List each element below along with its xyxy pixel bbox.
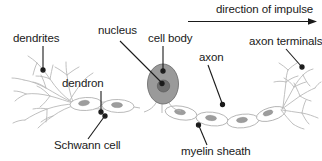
label-cell-body: cell body (148, 32, 193, 45)
neuron-illustration (0, 0, 322, 161)
label-schwann-cell: Schwann cell (54, 139, 121, 152)
label-axon-terminals: axon terminals (249, 35, 322, 48)
dendrite-tree (12, 56, 106, 128)
label-dendron: dendron (62, 77, 104, 90)
label-direction-of-impulse: direction of impulse (216, 3, 313, 16)
axon-terminal-tree (274, 63, 321, 129)
neuron-diagram: dendrites nucleus cell body axon termina… (0, 0, 322, 161)
impulse-arrow (188, 18, 317, 25)
label-myelin-sheath: myelin sheath (181, 145, 251, 158)
label-dendrites: dendrites (13, 32, 59, 45)
label-nucleus: nucleus (98, 24, 137, 37)
label-axon: axon (199, 51, 224, 64)
